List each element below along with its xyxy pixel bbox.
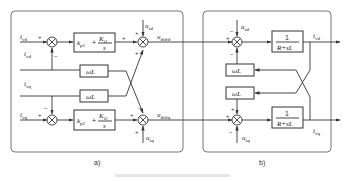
wl-label-b-top: ωL	[232, 67, 241, 75]
iq-fb-label: ivq	[24, 80, 31, 89]
sum3-plus: +	[38, 112, 42, 118]
sum4-plus-left: +	[130, 112, 134, 118]
pi2-plus: +	[92, 117, 96, 124]
panel-b-label: b)	[259, 159, 265, 167]
uq-label: udiffq	[157, 111, 171, 120]
usd-label-a: usd	[145, 22, 153, 31]
sum-junction-4	[138, 115, 148, 125]
pi2-den: s	[103, 122, 106, 130]
plant-q-den: R+sL	[276, 120, 293, 128]
sum3-minus: −	[44, 105, 48, 111]
sum-junction-1	[47, 37, 57, 47]
sum-junction-q	[232, 115, 242, 125]
iq-ref-label: ivq	[20, 111, 27, 120]
sumq-plus-left: +	[226, 113, 230, 119]
id-ref-label: ivd	[20, 33, 27, 42]
sum2-plus-bottom: +	[135, 50, 139, 56]
sum-junction-d	[232, 37, 242, 47]
sum4-minus-top: −	[138, 105, 142, 111]
wl-label-b-bottom: ωL	[232, 90, 241, 98]
sumd-plus: +	[226, 35, 230, 41]
plant-d-num: 1	[285, 34, 289, 41]
sumq-minus-bottom: −	[229, 129, 233, 135]
sumd-minus-bottom: −	[230, 51, 234, 57]
id-output-label: ivd	[313, 32, 320, 41]
plant-q-num: 1	[285, 110, 289, 117]
sum-junction-2	[138, 37, 148, 47]
usq-label-b: usq	[242, 134, 250, 143]
pi1-den: s	[103, 44, 106, 52]
panel-b-frame	[203, 11, 331, 152]
sum2-plus-left: +	[122, 35, 126, 41]
sum1-plus: +	[38, 34, 42, 40]
sumq-plus-top: +	[231, 106, 235, 112]
usq-label-a: usq	[146, 134, 154, 143]
sum-junction-3	[47, 115, 57, 125]
panel-a-label: a)	[94, 159, 100, 167]
sum2-plus-top: +	[135, 30, 139, 36]
sum4-plus-bottom: +	[135, 129, 139, 135]
control-block-diagram: ivd + ivd − kp1 + Ki1 s + usd + + udiffd…	[0, 0, 351, 181]
wl-label-a-bottom: ωL	[86, 93, 95, 101]
usd-label-b: usd	[241, 23, 249, 32]
iq-output-label: ivq	[313, 127, 320, 136]
pi1-plus: +	[92, 39, 96, 46]
ud-label: udiffd	[157, 33, 171, 42]
sum1-minus: −	[54, 53, 58, 59]
sumd-minus-top: −	[230, 28, 234, 34]
cross-bottom-to-sum2	[108, 50, 143, 96]
id-fb-label: ivd	[24, 50, 31, 59]
plant-d-den: R+sL	[276, 44, 293, 52]
wl-label-a-top: ωL	[86, 68, 95, 76]
figure-caption	[115, 174, 230, 177]
